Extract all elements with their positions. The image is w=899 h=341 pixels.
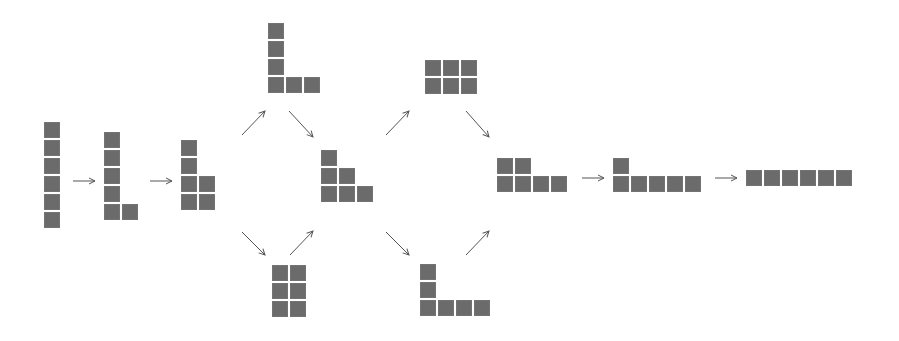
diagram-cell	[631, 176, 647, 192]
diagram-cell	[474, 300, 490, 316]
diagram-cell	[44, 140, 60, 156]
diagram-cell	[420, 282, 436, 298]
diagram-cell	[44, 122, 60, 138]
diagram-cell	[456, 300, 472, 316]
diagram-cell	[304, 77, 320, 93]
diagram-cell	[44, 194, 60, 210]
diagram-cell	[685, 176, 701, 192]
diagram-cell	[104, 132, 120, 148]
diagram-cell	[290, 265, 306, 281]
diagram-cell	[667, 176, 683, 192]
diagram-cell	[746, 170, 762, 186]
diagram-cell	[181, 158, 197, 174]
diagram-cell	[800, 170, 816, 186]
diagram-cell	[649, 176, 665, 192]
diagram-cell	[44, 176, 60, 192]
diagram-cell	[497, 176, 513, 192]
diagram-cell	[44, 212, 60, 228]
diagram-cell	[272, 301, 288, 317]
diagram-cell	[181, 176, 197, 192]
diagram-cell	[420, 300, 436, 316]
diagram-cell	[613, 176, 629, 192]
diagram-cell	[321, 150, 337, 166]
diagram-cell	[818, 170, 834, 186]
diagram-cell	[357, 186, 373, 202]
diagram-cell	[104, 186, 120, 202]
diagram-cell	[443, 60, 459, 76]
diagram-cell	[461, 60, 477, 76]
diagram-cell	[321, 186, 337, 202]
arrow-icon-p3111-to-p321	[289, 111, 313, 137]
diagram-cell	[515, 158, 531, 174]
diagram-cell	[461, 78, 477, 94]
diagram-cell	[181, 140, 197, 156]
diagram-cell	[339, 168, 355, 184]
diagram-cell	[497, 158, 513, 174]
diagram-cell	[533, 176, 549, 192]
diagram-cell	[199, 194, 215, 210]
diagram-cell	[438, 300, 454, 316]
diagram-cell	[268, 77, 284, 93]
diagram-cell	[551, 176, 567, 192]
diagram-cell	[290, 283, 306, 299]
diagram-cell	[199, 176, 215, 192]
diagram-cell	[272, 265, 288, 281]
arrow-icon-p222-to-p321	[290, 231, 313, 255]
diagram-cell	[613, 158, 629, 174]
diagram-cell	[104, 168, 120, 184]
diagram-cell	[286, 77, 302, 93]
diagram-cell	[782, 170, 798, 186]
diagram-cell	[420, 264, 436, 280]
diagram-cell	[268, 59, 284, 75]
diagram-cell	[104, 150, 120, 166]
arrow-icon-p2211-to-p3111	[242, 111, 265, 135]
diagram-cell	[443, 78, 459, 94]
arrow-icon-p321-to-p411	[386, 232, 409, 255]
diagram-cell	[321, 168, 337, 184]
diagram-cell	[290, 301, 306, 317]
diagram-cell	[515, 176, 531, 192]
diagram-cell	[339, 186, 355, 202]
diagram-cell	[122, 204, 138, 220]
diagram-cell	[268, 41, 284, 57]
diagram-cell	[425, 78, 441, 94]
arrow-icon-p33-to-p42	[466, 111, 489, 137]
diagram-cell	[268, 23, 284, 39]
arrow-icon-p411-to-p42	[466, 231, 489, 255]
diagram-cell	[104, 204, 120, 220]
diagram-cell	[272, 283, 288, 299]
arrow-icon-p2211-to-p222	[242, 232, 265, 255]
diagram-cell	[764, 170, 780, 186]
diagram-cell	[181, 194, 197, 210]
arrow-icon-p321-to-p33	[386, 111, 409, 135]
diagram-cell	[425, 60, 441, 76]
diagram-cell	[44, 158, 60, 174]
diagram-cell	[836, 170, 852, 186]
